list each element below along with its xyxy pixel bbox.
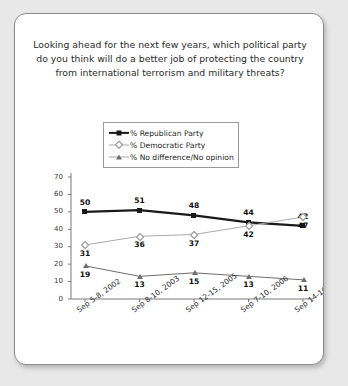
data-point-label: 48 [184, 201, 204, 210]
y-axis-tick-label: 40 [47, 225, 63, 233]
data-point-label: 50 [75, 198, 95, 207]
data-point-marker [137, 274, 143, 279]
data-point-marker [82, 209, 87, 214]
data-point-label: 15 [184, 277, 204, 286]
data-point-label: 36 [130, 240, 150, 249]
data-point-label: 42 [239, 230, 259, 239]
data-point-marker [301, 277, 307, 282]
data-point-label: 11 [293, 284, 313, 293]
y-axis-tick-label: 60 [47, 190, 63, 198]
y-axis-tick-label: 30 [47, 242, 63, 250]
data-point-marker [246, 274, 252, 279]
data-point-marker [191, 213, 196, 218]
data-point-label: 13 [239, 280, 259, 289]
y-axis-tick-label: 10 [47, 277, 63, 285]
plot-area: 010203040506070Sep 5-8, 2002Sep 8-10, 20… [15, 14, 324, 365]
data-point-label: 51 [130, 196, 150, 205]
data-point-label: 37 [184, 239, 204, 248]
chart-card: Looking ahead for the next few years, wh… [14, 13, 324, 365]
data-point-marker [83, 263, 89, 268]
data-point-marker [137, 208, 142, 213]
y-axis-tick-label: 50 [47, 207, 63, 215]
data-point-label: 31 [75, 249, 95, 258]
data-point-label: 44 [239, 208, 259, 217]
data-point-label: 19 [75, 270, 95, 279]
y-axis-tick-label: 20 [47, 260, 63, 268]
data-point-marker [192, 270, 198, 275]
y-axis-tick-label: 70 [47, 173, 63, 181]
data-point-label: 13 [130, 280, 150, 289]
data-point-label: 47 [293, 221, 313, 230]
y-axis-tick-label: 0 [47, 295, 63, 303]
